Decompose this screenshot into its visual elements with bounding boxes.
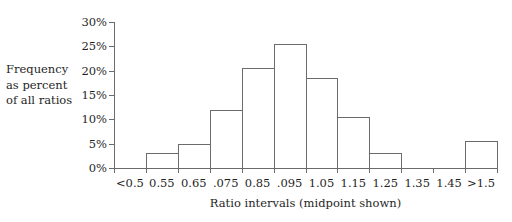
y-axis-line — [114, 22, 115, 168]
x-axis-tick-label: >1.5 — [467, 176, 495, 190]
x-axis-tick — [433, 168, 434, 173]
x-axis-tick — [274, 168, 275, 173]
y-axis-tick — [109, 144, 114, 145]
x-axis-tick — [337, 168, 338, 173]
y-axis-tick — [109, 22, 114, 23]
bar — [242, 68, 275, 168]
y-axis-tick — [109, 71, 114, 72]
x-axis-tick — [242, 168, 243, 173]
x-axis-tick-label: .095 — [277, 176, 303, 190]
x-axis-tick-label: 1.05 — [309, 176, 335, 190]
y-axis-tick-label: 0% — [89, 161, 107, 175]
y-axis-tick-label: 10% — [81, 112, 107, 126]
y-axis-caption-line-2: as percent — [6, 78, 92, 94]
x-axis-tick — [178, 168, 179, 173]
x-axis-tick-label: 1.45 — [436, 176, 462, 190]
x-axis-tick — [146, 168, 147, 173]
x-axis-tick-label: 1.35 — [404, 176, 430, 190]
bar — [369, 153, 402, 168]
plot-area: 0%5%10%15%20%25%30% <0.50.550.65.0750.85… — [114, 22, 497, 168]
x-axis-tick-label: .075 — [213, 176, 239, 190]
bar — [210, 110, 243, 168]
x-axis-tick — [114, 168, 115, 173]
y-axis-tick-label: 5% — [89, 137, 107, 151]
x-axis-tick — [401, 168, 402, 173]
y-axis-tick — [109, 95, 114, 96]
y-axis-tick-label: 25% — [81, 39, 107, 53]
x-axis-tick — [210, 168, 211, 173]
histogram-figure: Frequency as percent of all ratios 0%5%1… — [0, 0, 512, 222]
bar — [146, 153, 179, 168]
y-axis-tick — [109, 46, 114, 47]
bar — [306, 78, 338, 168]
x-axis-tick — [306, 168, 307, 173]
y-axis-caption-line-1: Frequency — [6, 62, 92, 78]
x-axis-tick-label: 0.55 — [149, 176, 175, 190]
x-axis-tick — [369, 168, 370, 173]
bar — [465, 141, 498, 168]
bar — [274, 44, 307, 168]
x-axis-tick-label: 1.15 — [341, 176, 367, 190]
x-axis-caption: Ratio intervals (midpoint shown) — [114, 196, 497, 210]
bar — [337, 117, 370, 168]
x-axis-tick-label: 0.65 — [181, 176, 207, 190]
x-axis-tick — [497, 168, 498, 173]
x-axis-tick-label: 0.85 — [245, 176, 271, 190]
y-axis-caption-line-3: of all ratios — [6, 93, 92, 109]
y-axis-caption: Frequency as percent of all ratios — [6, 62, 92, 109]
y-axis-tick-label: 30% — [81, 15, 107, 29]
x-axis-tick-label: 1.25 — [372, 176, 398, 190]
x-axis-tick-label: <0.5 — [116, 176, 144, 190]
y-axis-tick-label: 20% — [81, 64, 107, 78]
y-axis-tick — [109, 119, 114, 120]
x-axis-tick — [465, 168, 466, 173]
bar — [178, 144, 211, 168]
y-axis-tick-label: 15% — [81, 88, 107, 102]
